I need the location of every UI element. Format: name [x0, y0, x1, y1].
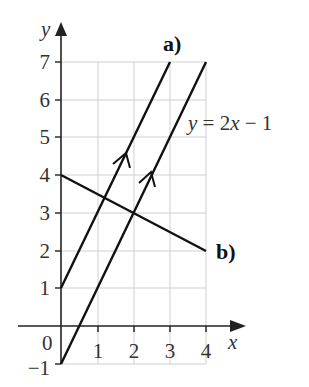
- y-tick-label: −1: [28, 356, 50, 380]
- y-axis-label: y: [39, 17, 51, 41]
- y-tick-label: 7: [40, 50, 51, 74]
- coordinate-diagram: y x 0 7 6 5 4 3 2 1 −1 1 2 3 4 a) b) y =…: [0, 0, 309, 387]
- x-axis-label: x: [227, 330, 238, 354]
- x-tick-label: 2: [129, 339, 140, 363]
- y-tick-label: 3: [40, 201, 51, 225]
- label-a: a): [163, 31, 181, 56]
- y-tick-label: 1: [40, 276, 51, 300]
- origin-label: 0: [42, 331, 53, 355]
- x-tick-label: 1: [93, 339, 104, 363]
- y-axis: [55, 22, 67, 364]
- y-axis-arrow-icon: [55, 22, 67, 36]
- x-tick-label: 4: [201, 339, 212, 363]
- label-b: b): [216, 239, 236, 264]
- x-tick-label: 3: [165, 339, 176, 363]
- y-tick-label: 2: [40, 239, 51, 263]
- y-tick-label: 5: [40, 125, 51, 149]
- y-tick-label: 4: [40, 163, 51, 187]
- equation-label: y = 2x − 1: [186, 111, 272, 135]
- y-tick-label: 6: [40, 88, 51, 112]
